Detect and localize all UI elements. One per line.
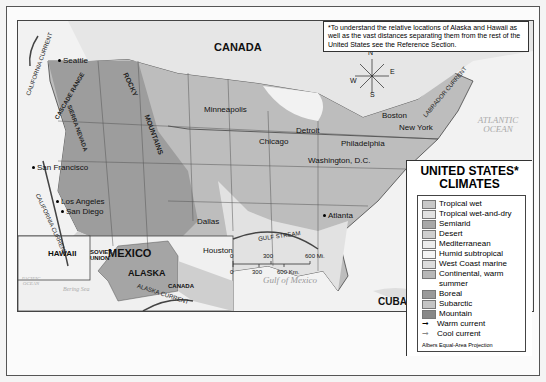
scale-mi-0: 0 xyxy=(230,253,233,259)
scale-km-0: 0 xyxy=(230,269,233,275)
city-washington-dc: Washington, D.C. xyxy=(308,156,370,165)
label-alaska: ALASKA xyxy=(128,268,166,278)
label-gulf-of-mexico: Gulf of Mexico xyxy=(263,276,317,285)
scale-mi-300: 300 xyxy=(263,253,273,259)
legend-item-west-coast-marine: West Coast marine xyxy=(422,259,521,269)
legend: UNITED STATES*CLIMATES Tropical wet Trop… xyxy=(406,160,532,356)
legend-title: UNITED STATES*CLIMATES xyxy=(407,165,532,191)
label-soviet-union: SOVIET UNION xyxy=(90,249,120,261)
city-seattle: Seattle xyxy=(58,56,88,65)
legend-item-semiarid: Semiarid xyxy=(422,219,521,229)
city-detroit: Detroit xyxy=(296,126,320,135)
city-dallas: Dallas xyxy=(197,217,219,226)
legend-item-humid-subtropical: Humid subtropical xyxy=(422,249,521,259)
warm-current-arrow-icon: ➞ xyxy=(422,319,434,329)
label-atlantic-ocean: ATLANTIC OCEAN xyxy=(468,116,528,134)
legend-item-desert: Desert xyxy=(422,229,521,239)
city-san-francisco: San Francisco xyxy=(32,163,88,172)
compass-e: E xyxy=(390,68,395,75)
label-cuba: CUBA xyxy=(378,296,407,307)
legend-box: Tropical wet Tropical wet-and-dry Semiar… xyxy=(417,195,526,352)
label-pacific-ocean: PACIFIC OCEAN xyxy=(17,276,46,286)
city-chicago: Chicago xyxy=(259,137,288,146)
label-canada-alaska: CANADA xyxy=(168,283,194,289)
footnote-box: *To understand the relative locations of… xyxy=(323,21,529,52)
legend-item-mediterranean: Mediterranean xyxy=(422,239,521,249)
city-philadelphia: Philadelphia xyxy=(341,139,385,148)
cool-current-arrow-icon: ➞ xyxy=(422,329,434,339)
legend-item-mountain: Mountain xyxy=(422,309,521,319)
label-bering-sea: Bering Sea xyxy=(63,286,90,292)
compass-w: W xyxy=(350,77,357,84)
legend-item-tropical-wet: Tropical wet xyxy=(422,199,521,209)
label-canada: CANADA xyxy=(214,41,262,53)
legend-item-tropical-wet-dry: Tropical wet-and-dry xyxy=(422,209,521,219)
legend-item-warm-current: ➞Warm current xyxy=(422,319,521,329)
scale-km-600: 600 Km. xyxy=(277,269,299,275)
scale-km-300: 300 xyxy=(252,269,262,275)
legend-item-subarctic: Subarctic xyxy=(422,299,521,309)
legend-item-continental: Continental, warm summer xyxy=(422,269,521,289)
city-houston: Houston xyxy=(203,246,233,255)
city-minneapolis: Minneapolis xyxy=(204,105,247,114)
legend-item-boreal: Boreal xyxy=(422,289,521,299)
city-atlanta: Atlanta xyxy=(323,211,353,220)
city-boston: Boston xyxy=(382,111,407,120)
legend-item-cool-current: ➞Cool current xyxy=(422,329,521,339)
city-san-diego: San Diego xyxy=(61,207,103,216)
compass-s: S xyxy=(370,91,375,98)
scale-mi-600: 600 Mi. xyxy=(305,253,325,259)
projection-note: Albers Equal-Area Projection xyxy=(422,342,521,348)
city-los-angeles: Los Angeles xyxy=(56,197,105,206)
city-new-york: New York xyxy=(399,123,433,132)
